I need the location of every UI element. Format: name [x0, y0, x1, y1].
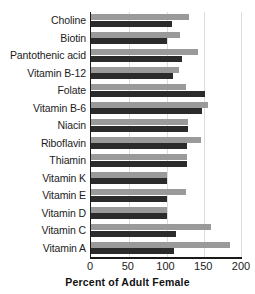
- bar-light-vitamin-b6: [91, 102, 208, 108]
- bar-dark-niacin: [91, 126, 188, 132]
- x-tick-100: 100: [156, 259, 174, 273]
- x-tick-50: 50: [122, 259, 134, 273]
- category-label-riboflavin: Riboflavin: [0, 137, 86, 149]
- category-label-pantothenic-acid: Pantothenic acid: [0, 49, 86, 61]
- x-tick-150: 150: [194, 259, 212, 273]
- bar-group-biotin: [91, 30, 242, 48]
- category-label-niacin: Niacin: [0, 119, 86, 131]
- category-label-choline: Choline: [0, 14, 86, 26]
- bar-dark-vitamin-k: [91, 178, 167, 184]
- bar-group-choline: [91, 12, 242, 30]
- bar-dark-vitamin-e: [91, 196, 167, 202]
- bar-group-niacin: [91, 117, 242, 135]
- bar-dark-thiamin: [91, 161, 187, 167]
- bar-dark-vitamin-a: [91, 248, 174, 254]
- bar-dark-vitamin-d: [91, 213, 167, 219]
- bar-light-vitamin-d: [91, 207, 167, 213]
- x-axis-tick-labels: 0 50 100 150 200: [0, 259, 255, 275]
- bar-light-vitamin-a: [91, 242, 230, 248]
- bar-group-vitamin-k: [91, 170, 242, 188]
- bar-group-vitamin-e: [91, 187, 242, 205]
- bar-dark-biotin: [91, 38, 167, 44]
- bar-group-vitamin-b12: [91, 65, 242, 83]
- bar-group-pantothenic-acid: [91, 47, 242, 65]
- category-label-folate: Folate: [0, 84, 86, 96]
- category-label-thiamin: Thiamin: [0, 154, 86, 166]
- category-label-vitamin-e: Vitamin E: [0, 189, 86, 201]
- bar-dark-vitamin-b12: [91, 73, 173, 79]
- bar-light-folate: [91, 84, 186, 90]
- category-label-vitamin-d: Vitamin D: [0, 207, 86, 219]
- bar-dark-folate: [91, 91, 205, 97]
- bar-dark-choline: [91, 21, 172, 27]
- category-label-vitamin-c: Vitamin C: [0, 224, 86, 236]
- category-label-vitamin-b12: Vitamin B-12: [0, 67, 86, 79]
- y-axis-category-labels: Choline Biotin Pantothenic acid Vitamin …: [0, 12, 86, 257]
- bar-dark-vitamin-b6: [91, 108, 202, 114]
- bar-rows: [91, 12, 242, 257]
- category-label-vitamin-b6: Vitamin B-6: [0, 102, 86, 114]
- bar-light-biotin: [91, 32, 180, 38]
- bar-group-folate: [91, 82, 242, 100]
- bar-group-vitamin-d: [91, 205, 242, 223]
- bar-light-choline: [91, 14, 189, 20]
- bar-chart: Choline Biotin Pantothenic acid Vitamin …: [0, 0, 255, 294]
- category-label-biotin: Biotin: [0, 32, 86, 44]
- bar-dark-riboflavin: [91, 143, 187, 149]
- plot-area: [90, 12, 242, 257]
- bar-light-riboflavin: [91, 137, 201, 143]
- bar-light-vitamin-b12: [91, 67, 179, 73]
- bar-group-riboflavin: [91, 135, 242, 153]
- bar-light-niacin: [91, 119, 188, 125]
- bar-group-thiamin: [91, 152, 242, 170]
- bar-light-vitamin-c: [91, 224, 211, 230]
- x-tick-0: 0: [87, 259, 93, 273]
- bar-light-thiamin: [91, 154, 187, 160]
- bar-dark-pantothenic-acid: [91, 56, 182, 62]
- x-axis-title: Percent of Adult Female: [0, 276, 255, 288]
- bar-group-vitamin-c: [91, 222, 242, 240]
- bar-dark-vitamin-c: [91, 231, 176, 237]
- category-label-vitamin-a: Vitamin A: [0, 242, 86, 254]
- bar-light-vitamin-e: [91, 189, 186, 195]
- category-label-vitamin-k: Vitamin K: [0, 172, 86, 184]
- bar-group-vitamin-a: [91, 240, 242, 258]
- bar-light-pantothenic-acid: [91, 49, 198, 55]
- x-tick-200: 200: [232, 259, 250, 273]
- bar-light-vitamin-k: [91, 172, 167, 178]
- bar-group-vitamin-b6: [91, 100, 242, 118]
